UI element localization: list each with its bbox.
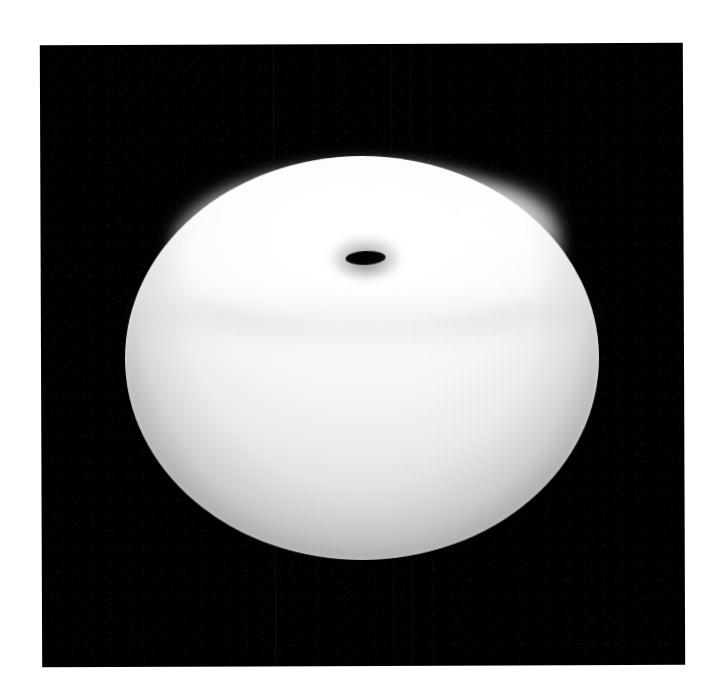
spheroid-body: [124, 155, 600, 561]
photo-panel: [40, 43, 685, 667]
image-viewport: [0, 0, 716, 700]
spheroid-group: [40, 43, 685, 667]
